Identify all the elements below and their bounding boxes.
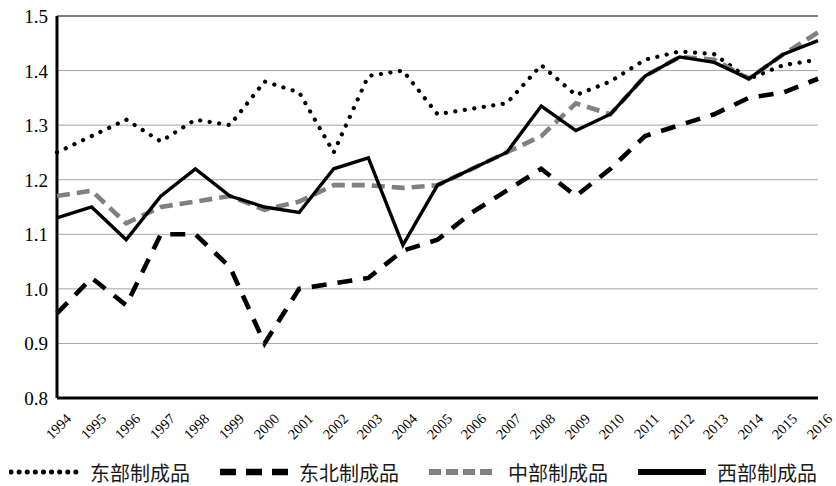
y-tick-label: 1.4 bbox=[0, 62, 48, 81]
legend-label: 东部制成品 bbox=[90, 458, 190, 486]
y-tick-label: 1.0 bbox=[0, 280, 48, 299]
series-line-1 bbox=[57, 51, 818, 152]
y-tick-label: 0.8 bbox=[0, 389, 48, 408]
y-tick-label: 1.2 bbox=[0, 171, 48, 190]
series-lines bbox=[57, 32, 818, 343]
y-tick-label: 0.9 bbox=[0, 334, 48, 353]
legend-label: 西部制成品 bbox=[717, 458, 817, 486]
solid-line-marker bbox=[636, 465, 708, 479]
series-line-2 bbox=[57, 79, 818, 344]
legend-item[interactable]: 中部制成品 bbox=[427, 458, 608, 486]
dotted-line-marker bbox=[9, 465, 81, 479]
dashed-line-marker bbox=[218, 465, 290, 479]
gray-dashed-line-marker bbox=[427, 465, 499, 479]
legend-label: 东北制成品 bbox=[299, 458, 399, 486]
y-tick-label: 1.1 bbox=[0, 225, 48, 244]
legend-label: 中部制成品 bbox=[508, 458, 608, 486]
legend-item[interactable]: 西部制成品 bbox=[636, 458, 817, 486]
legend-item[interactable]: 东部制成品 bbox=[9, 458, 190, 486]
legend-item[interactable]: 东北制成品 bbox=[218, 458, 399, 486]
series-line-4 bbox=[57, 41, 818, 246]
y-tick-label: 1.3 bbox=[0, 116, 48, 135]
chart-legend: 东部制成品东北制成品中部制成品西部制成品 bbox=[0, 458, 825, 486]
y-tick-label: 1.5 bbox=[0, 7, 48, 26]
